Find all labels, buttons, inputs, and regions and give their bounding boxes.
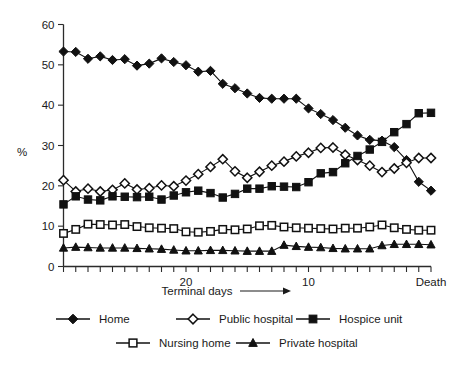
open-square-marker bbox=[170, 225, 177, 232]
filled-diamond-marker bbox=[181, 61, 190, 70]
filled-diamond-marker bbox=[230, 84, 239, 93]
filled-diamond-marker bbox=[132, 61, 141, 70]
series-line bbox=[64, 52, 432, 191]
open-square-marker bbox=[72, 226, 79, 233]
filled-square-marker bbox=[60, 201, 67, 208]
filled-square-marker bbox=[256, 185, 263, 192]
open-square-marker bbox=[378, 221, 385, 228]
open-square-marker bbox=[403, 226, 410, 233]
legend-item-private-hospital[interactable]: Private hospital bbox=[236, 337, 358, 349]
filled-diamond-marker bbox=[71, 47, 80, 56]
filled-diamond-marker bbox=[365, 135, 374, 144]
filled-square-marker bbox=[219, 194, 226, 201]
filled-diamond-marker bbox=[243, 89, 252, 98]
open-square-marker bbox=[158, 224, 165, 231]
chart-legend: HomePublic hospitalHospice unitNursing h… bbox=[56, 313, 403, 349]
filled-square-marker bbox=[170, 192, 177, 199]
open-diamond-marker bbox=[194, 170, 203, 179]
filled-square-marker bbox=[231, 190, 238, 197]
open-square-marker bbox=[231, 226, 238, 233]
open-square-marker bbox=[182, 228, 189, 235]
filled-square-marker bbox=[146, 193, 153, 200]
filled-diamond-marker bbox=[353, 131, 362, 140]
y-axis-tick-label: 50 bbox=[42, 59, 55, 71]
open-diamond-marker bbox=[132, 185, 141, 194]
filled-diamond-marker bbox=[83, 54, 92, 63]
open-square-marker bbox=[293, 224, 300, 231]
filled-diamond-marker bbox=[120, 55, 129, 64]
open-square-marker bbox=[354, 224, 361, 231]
filled-square-marker bbox=[317, 170, 324, 177]
chart-figure: 0102030405060 2010Death %Terminal days H… bbox=[0, 0, 450, 365]
mortality-place-of-death-line-chart: 0102030405060 2010Death %Terminal days H… bbox=[0, 0, 450, 365]
legend-item-hospice-unit[interactable]: Hospice unit bbox=[296, 313, 403, 325]
open-diamond-marker bbox=[292, 152, 301, 161]
filled-square-marker bbox=[84, 196, 91, 203]
open-diamond-marker bbox=[365, 161, 374, 170]
open-square-marker bbox=[427, 227, 434, 234]
y-axis-title: % bbox=[17, 146, 27, 158]
open-square-marker bbox=[129, 339, 137, 347]
legend-label: Nursing home bbox=[159, 337, 231, 349]
y-axis-tick-label: 30 bbox=[42, 140, 55, 152]
y-axis-tick-label: 20 bbox=[42, 180, 55, 192]
open-diamond-marker bbox=[206, 162, 215, 171]
filled-square-marker bbox=[415, 110, 422, 117]
filled-diamond-marker bbox=[316, 109, 325, 118]
open-square-marker bbox=[244, 225, 251, 232]
legend-label: Private hospital bbox=[279, 337, 358, 349]
legend-item-public-hospital[interactable]: Public hospital bbox=[176, 313, 293, 325]
legend-label: Hospice unit bbox=[339, 313, 403, 325]
open-diamond-marker bbox=[267, 161, 276, 170]
filled-square-marker bbox=[354, 152, 361, 159]
open-square-marker bbox=[305, 224, 312, 231]
series-hospice-unit bbox=[60, 109, 435, 208]
open-diamond-marker bbox=[83, 184, 92, 193]
filled-square-marker bbox=[182, 189, 189, 196]
filled-diamond-marker bbox=[328, 115, 337, 124]
open-square-marker bbox=[133, 223, 140, 230]
filled-square-marker bbox=[109, 193, 116, 200]
filled-square-marker bbox=[305, 179, 312, 186]
open-diamond-marker bbox=[96, 187, 105, 196]
filled-diamond-marker bbox=[68, 314, 78, 324]
open-square-marker bbox=[121, 221, 128, 228]
open-diamond-marker bbox=[255, 167, 264, 176]
open-square-marker bbox=[109, 221, 116, 228]
legend-label: Public hospital bbox=[219, 313, 293, 325]
filled-square-marker bbox=[391, 128, 398, 135]
open-diamond-marker bbox=[426, 153, 435, 162]
filled-diamond-marker bbox=[96, 52, 105, 61]
open-diamond-marker bbox=[377, 168, 386, 177]
legend-item-home[interactable]: Home bbox=[56, 313, 130, 325]
open-square-marker bbox=[317, 225, 324, 232]
filled-diamond-marker bbox=[426, 186, 435, 195]
open-square-marker bbox=[391, 224, 398, 231]
open-diamond-marker bbox=[157, 181, 166, 190]
open-square-marker bbox=[256, 222, 263, 229]
filled-square-marker bbox=[195, 187, 202, 194]
filled-square-marker bbox=[293, 183, 300, 190]
open-square-marker bbox=[280, 223, 287, 230]
open-square-marker bbox=[84, 220, 91, 227]
open-diamond-marker bbox=[316, 143, 325, 152]
open-diamond-marker bbox=[390, 164, 399, 173]
filled-triangle-marker bbox=[72, 243, 80, 251]
x-axis-tick-label: Death bbox=[416, 276, 447, 288]
series-plot-area bbox=[59, 47, 436, 254]
filled-square-marker bbox=[342, 160, 349, 167]
y-axis-tick-label: 0 bbox=[48, 261, 54, 273]
filled-square-marker bbox=[280, 183, 287, 190]
filled-diamond-marker bbox=[194, 67, 203, 76]
legend-item-nursing-home[interactable]: Nursing home bbox=[116, 337, 231, 349]
filled-diamond-marker bbox=[267, 94, 276, 103]
filled-square-marker bbox=[427, 109, 434, 116]
open-square-marker bbox=[342, 224, 349, 231]
open-square-marker bbox=[207, 228, 214, 235]
open-diamond-marker bbox=[188, 314, 198, 324]
series-private-hospital bbox=[59, 240, 435, 254]
filled-diamond-marker bbox=[157, 54, 166, 63]
y-axis-tick-label: 40 bbox=[42, 99, 55, 111]
legend-label: Home bbox=[99, 313, 130, 325]
open-diamond-marker bbox=[328, 143, 337, 152]
